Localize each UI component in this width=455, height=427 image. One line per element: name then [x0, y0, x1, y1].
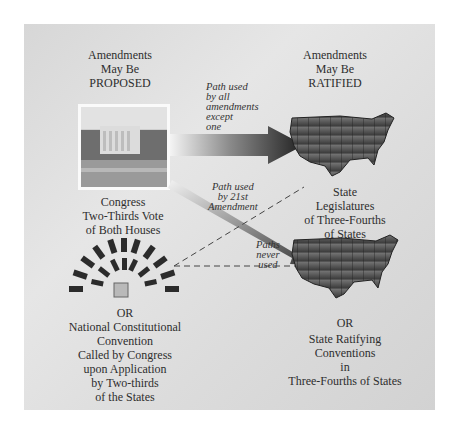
twentyfirst-path-label: Path used by 21st Amendment [208, 182, 258, 212]
label-line: Amendment [208, 202, 258, 212]
caption-line: of Both Houses [68, 223, 178, 237]
caption-line: Called by Congress [55, 348, 195, 362]
caption-line: Convention [55, 334, 195, 348]
caption-line: OR [280, 316, 410, 330]
caption-line: Two-Thirds Vote [68, 209, 178, 223]
us-map-legislatures-icon [290, 113, 394, 176]
never-used-label: Paths never used [256, 240, 280, 270]
congress-caption: Congress Two-Thirds Vote of Both Houses [68, 195, 178, 237]
caption-line: of States [290, 227, 400, 241]
us-map-conventions-icon [292, 235, 398, 298]
ratified-header-line: RATIFIED [285, 76, 385, 90]
caption-line: of Three-Fourths [290, 213, 400, 227]
caption-line: National Constitutional [55, 320, 195, 334]
caption-line: Three-Fourths of States [280, 374, 410, 388]
caption-line: upon Application [55, 362, 195, 376]
caption-line: OR [55, 306, 195, 320]
main-path-label: Path used by all amendments except one [206, 82, 259, 132]
label-line: used [256, 260, 280, 270]
white-house-photo-icon [78, 104, 170, 190]
caption-line: Conventions [280, 346, 410, 360]
caption-line: State [290, 185, 400, 199]
proposed-header: Amendments May Be PROPOSED [70, 48, 170, 90]
caption-line: Congress [68, 195, 178, 209]
ratified-header-line: May Be [285, 62, 385, 76]
conventions-caption: OR State Ratifying Conventions in Three-… [280, 316, 410, 388]
caption-line: State Ratifying [280, 332, 410, 346]
caption-line: Legislatures [290, 199, 400, 213]
proposed-header-line: Amendments [70, 48, 170, 62]
label-line: one [206, 122, 259, 132]
ratified-header: Amendments May Be RATIFIED [285, 48, 385, 90]
convention-seating-icon [69, 238, 179, 297]
ratified-header-line: Amendments [285, 48, 385, 62]
convention-caption: OR National Constitutional Convention Ca… [55, 306, 195, 404]
caption-line: in [280, 360, 410, 374]
legislatures-caption: State Legislatures of Three-Fourths of S… [290, 185, 400, 241]
caption-line: by Two-thirds [55, 376, 195, 390]
caption-line: of the States [55, 390, 195, 404]
proposed-header-line: PROPOSED [70, 76, 170, 90]
proposed-header-line: May Be [70, 62, 170, 76]
